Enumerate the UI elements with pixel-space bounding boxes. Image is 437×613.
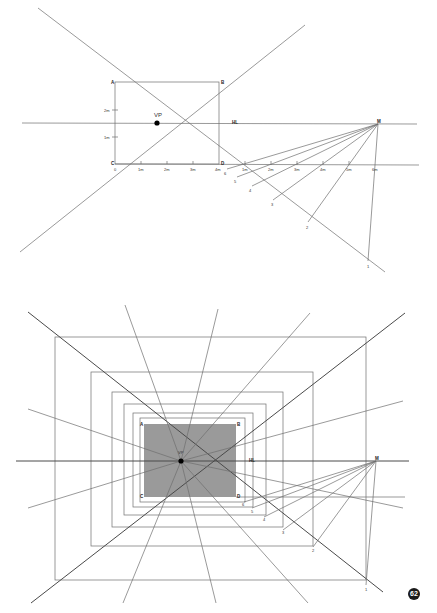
ground-ticks [112, 110, 349, 165]
depth-point-1-bottom: 1 [365, 587, 368, 592]
diagonal-main-1 [28, 312, 383, 592]
depth-point-5-bottom: 5 [251, 509, 254, 514]
horizon-line [22, 123, 417, 124]
hl-label: HL [232, 120, 238, 125]
right-tick-2m: 2m [268, 167, 274, 172]
measuring-lines-bottom [244, 461, 376, 585]
ground-tick-2m: 2m [164, 167, 170, 172]
right-tick-4m: 4m [320, 167, 326, 172]
right-tick-1m: 1m [242, 167, 248, 172]
corner-b-label: B [221, 80, 225, 85]
ground-tick-1m: 1m [138, 167, 144, 172]
depth-point-2-bottom: 2 [312, 548, 315, 553]
depth-point-3: 3 [271, 202, 274, 207]
corner-d-label: D [221, 161, 225, 166]
m-label-bottom: M [375, 456, 379, 461]
corner-b-label-bottom: B [237, 422, 241, 427]
right-tick-5m: 5m [346, 167, 352, 172]
vanishing-point-dot [154, 120, 159, 125]
vp-label: VP [154, 112, 162, 118]
ground-tick-3m: 3m [190, 167, 196, 172]
figure-number-badge: 62 [408, 588, 420, 600]
vp-label-bottom: VP [178, 450, 184, 455]
diagonal-a-d [38, 8, 385, 272]
depth-point-4-bottom: 4 [263, 517, 266, 522]
depth-point-6-bottom: 6 [242, 502, 245, 507]
m-label: M [377, 119, 381, 124]
corner-a-label-bottom: A [140, 422, 144, 427]
corner-c-label: C [111, 161, 115, 166]
height-tick-2m: 2m [104, 108, 110, 113]
diagonal-c-b [20, 25, 305, 252]
corner-a-label: A [111, 80, 115, 85]
perspective-drawing: VP HL M A B C D 2m 1m 0 1m 2m 3m 4m 1m 2… [0, 0, 437, 613]
ground-tick-4m: 4m [215, 167, 221, 172]
hl-label-bottom: HL [249, 458, 255, 463]
corner-d-label-bottom: D [237, 494, 241, 499]
depth-point-1: 1 [367, 264, 370, 269]
top-diagram: VP HL M A B C D 2m 1m 0 1m 2m 3m 4m 1m 2… [20, 8, 419, 272]
height-tick-1m: 1m [104, 135, 110, 140]
vanishing-point-dot-bottom [178, 458, 183, 463]
depth-point-6: 6 [224, 171, 227, 176]
right-tick-3m: 3m [294, 167, 300, 172]
depth-point-2: 2 [306, 225, 309, 230]
diagonal-main-2 [31, 313, 405, 603]
depth-point-5: 5 [234, 179, 237, 184]
corner-c-label-bottom: C [140, 494, 144, 499]
ground-tick-0: 0 [114, 167, 117, 172]
right-tick-6m: 6m [372, 167, 378, 172]
bottom-diagram: VP HL M A B C D 6 5 4 3 2 1 [16, 305, 409, 603]
depth-point-4: 4 [249, 188, 252, 193]
depth-point-3-bottom: 3 [282, 530, 285, 535]
